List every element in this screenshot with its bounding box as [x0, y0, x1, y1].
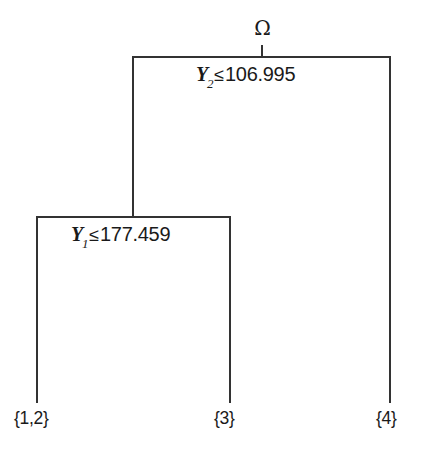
split-root-threshold: 106.995 — [225, 63, 295, 85]
split-condition-left: Y1≤177.459 — [71, 224, 170, 248]
split-left-operator: ≤ — [89, 225, 99, 245]
leaf-label-1-2: {1,2} — [14, 410, 49, 428]
decision-tree-figure: Ω Y2≤106.995 Y1≤177.459 {1,2} {3} {4} — [0, 0, 425, 453]
split-condition-root: Y2≤106.995 — [196, 64, 295, 88]
leaf-label-4: {4} — [376, 410, 397, 428]
leaf-label-3: {3} — [214, 410, 235, 428]
split-left-subscript: 1 — [82, 236, 88, 251]
split-root-subscript: 2 — [207, 76, 213, 91]
omega-symbol: Ω — [254, 16, 271, 40]
split-left-threshold: 177.459 — [100, 223, 170, 245]
split-root-operator: ≤ — [214, 65, 224, 85]
root-node-label: Ω — [0, 18, 425, 38]
